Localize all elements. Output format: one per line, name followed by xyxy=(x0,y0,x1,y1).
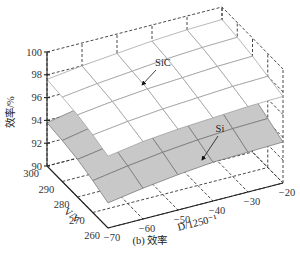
surfaces xyxy=(47,20,283,203)
annotation-sic-label: SiC xyxy=(155,57,171,68)
figure-caption: (b) 效率 xyxy=(0,232,300,247)
y-tick-label: 290 xyxy=(39,184,55,195)
annotation-si-label: Si xyxy=(216,123,225,134)
x-tick-label: −20 xyxy=(279,187,295,198)
z-tick-label: 94 xyxy=(32,115,43,126)
efficiency-3d-surface-chart: 9092949698100260270280290300−70−60−50−40… xyxy=(0,0,300,257)
z-tick-label: 96 xyxy=(32,92,43,103)
z-tick-label: 100 xyxy=(26,47,42,58)
z-axis-label: 效率/% xyxy=(4,96,16,128)
z-tick-label: 92 xyxy=(32,138,43,149)
z-tick-label: 98 xyxy=(32,69,43,80)
y-tick-label: 300 xyxy=(23,168,39,179)
x-tick-label: −30 xyxy=(244,196,260,207)
